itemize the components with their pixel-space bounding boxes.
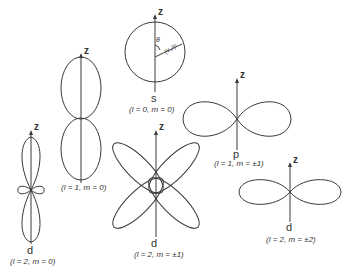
z-axis-arrow-icon (288, 162, 292, 167)
d-m2-orbital (239, 162, 341, 222)
orbital-diagram: z θ |Y₀⁰|² s (l = 0, m = 0) z (l = 1, m … (0, 0, 357, 279)
d-m1-letter: d (151, 238, 157, 249)
d-m2-letter: d (286, 222, 292, 233)
left-lobe (183, 102, 237, 137)
z-axis-arrow-icon (153, 14, 157, 19)
d-m2-quantum-numbers: (l = 2, m = ±2) (266, 236, 316, 244)
d-m0-letter: d (27, 245, 33, 256)
p-m1-z-axis-label: z (240, 70, 245, 80)
p-m1-orbital (183, 78, 291, 150)
d-m0-quantum-numbers: (l = 2, m = 0) (10, 258, 55, 266)
s-quantum-numbers: (l = 0, m = 0) (129, 106, 174, 114)
d-m0-z-axis-label: z (34, 122, 39, 132)
theta-label: θ (156, 36, 160, 43)
p-m0-quantum-numbers: (l = 1, m = 0) (61, 184, 106, 192)
lobe-lower-right (142, 171, 206, 235)
right-lobe (237, 102, 291, 137)
left-lobe (239, 180, 290, 205)
z-axis-arrow-icon (29, 130, 33, 135)
d-m0-orbital (18, 130, 44, 244)
lobe-upper-left (106, 136, 170, 200)
right-lobe (290, 180, 341, 205)
z-axis-arrow-icon (154, 130, 158, 135)
d-m2-z-axis-label: z (293, 155, 298, 165)
theta-arc (155, 45, 160, 50)
d-m1-quantum-numbers: (l = 2, m = ±1) (134, 251, 184, 259)
s-orbital (125, 14, 185, 92)
p-m0-z-axis-label: z (84, 46, 89, 56)
d-m1-z-axis-label: z (159, 122, 164, 132)
lobe-lower-left (106, 171, 170, 235)
p-m0-orbital (61, 53, 101, 183)
s-letter: s (151, 93, 157, 104)
torus-right (31, 186, 44, 194)
lobe-upper-right (142, 136, 206, 200)
s-z-axis-label: z (158, 7, 163, 17)
torus-left (18, 186, 31, 194)
z-axis-arrow-icon (235, 78, 239, 83)
p-m1-quantum-numbers: (l = 1, m = ±1) (214, 160, 264, 168)
d-m1-orbital (106, 130, 206, 237)
